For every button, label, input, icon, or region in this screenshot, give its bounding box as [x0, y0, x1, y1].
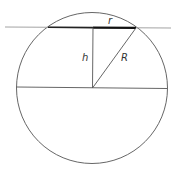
label-R: R: [121, 52, 128, 63]
circle-diagram: r h R: [0, 0, 181, 176]
label-h: h: [82, 52, 88, 63]
radius-R-line: [93, 28, 137, 88]
diameter-line: [17, 87, 168, 89]
height-h-line: [93, 28, 94, 88]
label-r: r: [108, 15, 113, 26]
